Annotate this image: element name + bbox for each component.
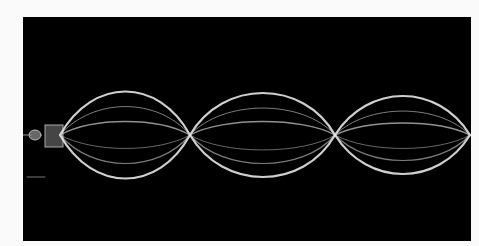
wave-loop-1 [60,92,190,179]
wave-loop-2 [190,93,335,177]
standing-wave-photo: Standing wave on a vibrating string [23,17,471,241]
wave-loop-3 [335,96,470,174]
standing-wave-drawing [23,17,471,241]
vibrator-icon [23,125,63,177]
